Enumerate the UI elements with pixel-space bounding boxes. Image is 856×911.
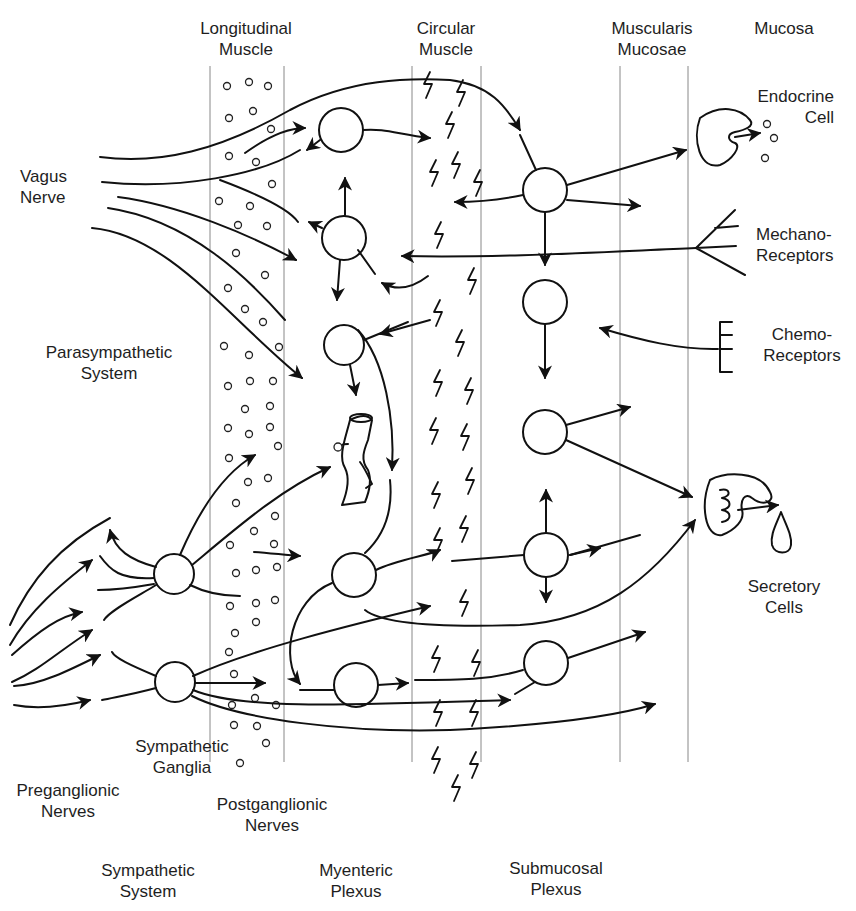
label-chemoreceptors: Chemo- Receptors — [752, 324, 852, 366]
label-sympathetic-ganglia: Sympathetic Ganglia — [124, 736, 240, 778]
myenteric-neurons — [290, 108, 440, 707]
label-vagus-nerve: Vagus Nerve — [20, 166, 92, 208]
label-preganglionic-nerves: Preganglionic Nerves — [0, 780, 136, 822]
misc-arrows — [570, 548, 600, 555]
label-longitudinal-muscle: Longitudinal Muscle — [180, 18, 312, 60]
label-mucosa: Mucosa — [748, 18, 820, 39]
label-mechanoreceptors: Mechano- Receptors — [756, 224, 856, 266]
label-secretory-cells: Secretory Cells — [728, 576, 840, 618]
label-endocrine-cell: Endocrine Cell — [738, 86, 834, 128]
label-sympathetic-system: Sympathetic System — [88, 860, 208, 902]
secretory-cell-icon — [705, 474, 791, 552]
circular-muscle-bolts — [424, 72, 482, 801]
vagus-nerve-fibres — [92, 79, 520, 378]
label-postganglionic-nerves: Postganglionic Nerves — [202, 794, 342, 836]
label-muscularis-mucosae: Muscularis Mucosae — [600, 18, 704, 60]
blood-vessel-icon — [334, 414, 372, 505]
label-parasympathetic-system: Parasympathetic System — [28, 342, 190, 384]
submucosal-neurons — [415, 135, 692, 694]
label-submucosal-plexus: Submucosal Plexus — [496, 858, 616, 900]
mechanoreceptor-fibre — [402, 210, 745, 275]
label-myenteric-plexus: Myenteric Plexus — [306, 860, 406, 902]
label-circular-muscle: Circular Muscle — [398, 18, 494, 60]
